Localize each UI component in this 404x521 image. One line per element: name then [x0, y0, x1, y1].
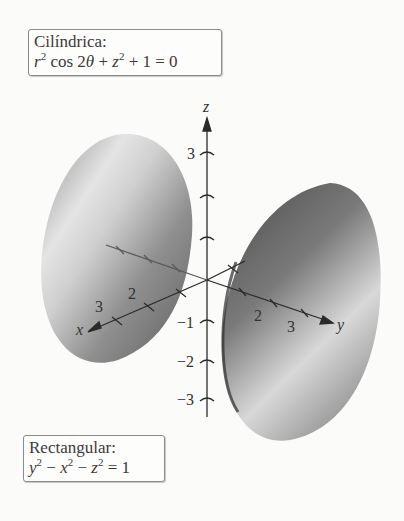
- x-axis-label: x: [75, 321, 83, 338]
- rectangular-equation: y² − x² − z² = 1 y2 − x2 − z2 = 1: [29, 458, 159, 478]
- z-tick-neg2: −2: [177, 353, 194, 370]
- z-tick-3: 3: [187, 145, 195, 162]
- x-tick-2: 2: [128, 285, 136, 302]
- z-tick-neg1: −1: [177, 314, 194, 331]
- y-axis-label: y: [335, 316, 345, 334]
- z-axis: [200, 118, 214, 417]
- y-tick-2: 2: [254, 307, 262, 324]
- y-tick-3: 3: [287, 318, 295, 335]
- rectangular-title: Rectangular:: [29, 438, 159, 458]
- z-tick-neg3: −3: [177, 391, 194, 408]
- x-tick-3: 3: [95, 298, 103, 315]
- rectangular-equation-box: Rectangular: y² − x² − z² = 1 y2 − x2 − …: [23, 435, 165, 482]
- z-axis-label: z: [202, 98, 210, 115]
